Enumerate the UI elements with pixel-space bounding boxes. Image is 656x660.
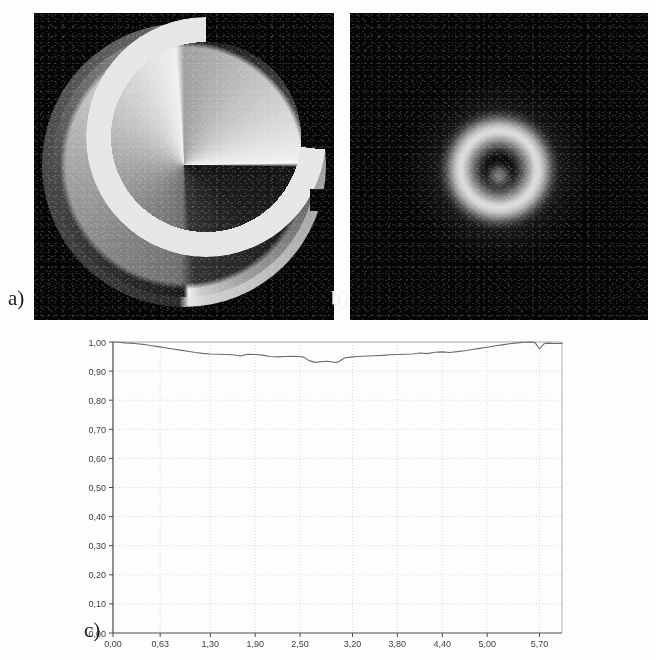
panel-b-image: [350, 13, 648, 320]
y-tick-label: 0,30: [88, 541, 106, 551]
x-tick-label: 1,90: [246, 639, 264, 649]
x-tick-label: 3,80: [389, 639, 407, 649]
data-series-group: [113, 342, 562, 362]
vortex-beam-core: [486, 164, 512, 186]
y-tick-label: 0,40: [88, 512, 106, 522]
panel-label-b: b): [331, 288, 349, 309]
y-tick-label: 0,90: [88, 367, 106, 377]
x-tick-label: 0,00: [104, 639, 122, 649]
y-tick-label: 0,10: [88, 599, 106, 609]
x-tick-label: 2,50: [291, 639, 309, 649]
x-tick-label: 1,30: [202, 639, 220, 649]
chart-svg: 0,000,100,200,300,400,500,600,700,800,90…: [0, 330, 656, 660]
y-tick-label: 0,70: [88, 425, 106, 435]
x-tick-label: 5,70: [531, 639, 549, 649]
x-tick-label: 3,20: [344, 639, 362, 649]
panel-a-image: [34, 13, 334, 320]
panel-label-c: c): [84, 620, 100, 641]
y-tick-label: 0,20: [88, 570, 106, 580]
horizontal-gridlines: [113, 342, 562, 604]
y-tick-label: 0,50: [88, 483, 106, 493]
figure-root: a) b) 0,000,100,200,300,400,500,600,700,…: [0, 0, 656, 660]
y-tick-label: 0,80: [88, 396, 106, 406]
panel-c-chart: 0,000,100,200,300,400,500,600,700,800,90…: [0, 330, 656, 660]
y-axis-ticks: 0,000,100,200,300,400,500,600,700,800,90…: [88, 338, 113, 639]
x-tick-label: 0,63: [151, 639, 169, 649]
y-tick-label: 0,60: [88, 454, 106, 464]
x-axis-ticks: 0,000,631,301,902,503,203,804,405,005,70: [104, 633, 548, 649]
spiral-phase-notch: [310, 189, 334, 211]
panel-label-a: a): [8, 288, 24, 309]
x-tick-label: 4,40: [434, 639, 452, 649]
data-series-line: [113, 342, 562, 362]
spiral-phase-bright-arc: [86, 17, 326, 257]
x-tick-label: 5,00: [478, 639, 496, 649]
y-tick-label: 1,00: [88, 338, 106, 348]
